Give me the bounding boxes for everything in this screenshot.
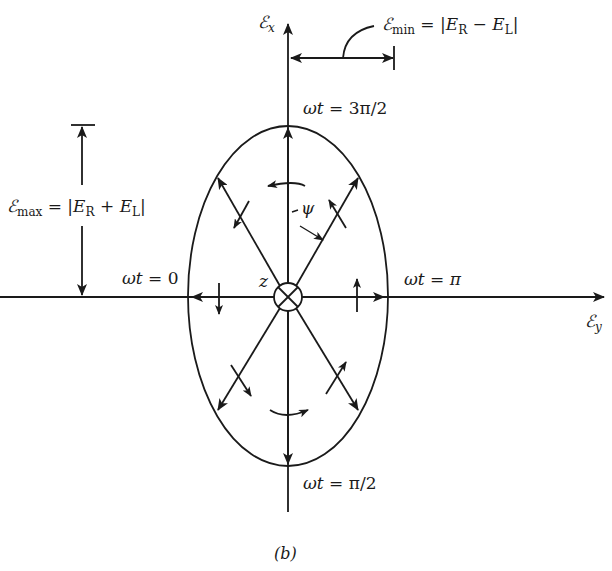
vector-lower-right xyxy=(296,308,358,410)
figure-caption: (b) xyxy=(274,546,297,562)
vector-lower-left xyxy=(218,308,280,410)
rotation-arrow-lower-left xyxy=(231,365,251,396)
emin-label: ℰmin = |ER − EL| xyxy=(382,16,518,36)
phase-label-bottom: ωt = π/2 xyxy=(303,475,376,492)
phase-label-right: ωt = π xyxy=(404,271,461,288)
vector-upper-right xyxy=(296,178,358,286)
psi-angle-arrow xyxy=(300,226,323,240)
phase-label-left: ωt = 0 xyxy=(122,270,179,287)
rotation-arrow-upper-left xyxy=(234,201,249,228)
rotation-arrow-bottom xyxy=(270,410,308,415)
emin-leader xyxy=(343,26,374,58)
diagram-canvas: ℰx ℰy ℰmin = |ER − EL| ℰmax = |ER + EL| … xyxy=(0,0,612,571)
rotation-arrow-lower-right xyxy=(326,362,346,394)
vector-upper-left xyxy=(218,178,280,286)
ex-axis-label: ℰx xyxy=(258,14,275,34)
psi-label: ψ xyxy=(301,200,314,217)
emax-label: ℰmax = |ER + EL| xyxy=(7,198,146,218)
ey-axis-label: ℰy xyxy=(585,313,602,333)
z-label: z xyxy=(259,273,268,290)
rotation-arrow-top xyxy=(268,183,305,186)
phase-label-top: ωt = 3π/2 xyxy=(303,100,387,117)
